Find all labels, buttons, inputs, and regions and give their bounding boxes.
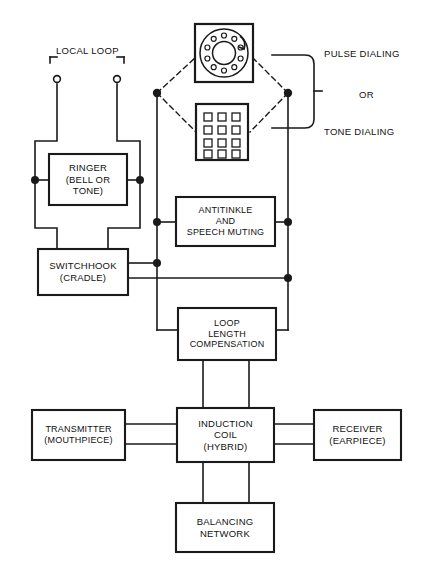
dashed-right-to-keypad (250, 93, 288, 132)
pulse-dialing-text: PULSE DIALING (324, 48, 400, 59)
dashed-right-to-rotary (252, 57, 288, 93)
diagram-canvas: RINGER (BELL OR TONE) SWITCHHOOK (CRADLE… (0, 0, 427, 581)
junction-switchhook-bus (153, 259, 161, 267)
terminal-ring (114, 76, 121, 83)
block-transmitter (32, 410, 125, 460)
block-loop-length (178, 308, 276, 360)
diagram-wiring (0, 0, 427, 581)
annotation-pulse-dialing: PULSE DIALING (324, 48, 424, 60)
tone-dialing-text: TONE DIALING (324, 126, 394, 137)
block-switchhook (38, 249, 128, 295)
junction-ringer-right (136, 176, 144, 184)
annotation-tone-dialing: TONE DIALING (324, 126, 424, 138)
junction-dial-left (153, 89, 161, 97)
local-loop-line-1: LOCAL (56, 45, 88, 56)
block-antitinkle (176, 197, 275, 246)
block-induction-coil (177, 408, 274, 462)
rotary-dial-icon (195, 24, 253, 82)
junction-ringer-left (31, 176, 39, 184)
keypad-icon (196, 104, 248, 160)
dashed-left-to-rotary (157, 57, 196, 93)
dialing-brace-bracket (272, 55, 314, 128)
annotation-local-loop: LOCAL LOOP (56, 45, 118, 57)
or-text: OR (359, 89, 374, 100)
terminal-tip (54, 76, 61, 83)
junction-antitinkle-left (153, 218, 161, 226)
block-receiver (314, 410, 401, 460)
local-loop-line-2: LOOP (91, 45, 119, 56)
dashed-left-to-keypad (157, 93, 196, 132)
block-balancing (176, 503, 274, 552)
junction-dial-right (284, 89, 292, 97)
block-ringer (49, 154, 127, 205)
annotation-or: OR (359, 89, 389, 101)
junction-antitinkle-right (284, 218, 292, 226)
junction-lower-bus (284, 274, 292, 282)
